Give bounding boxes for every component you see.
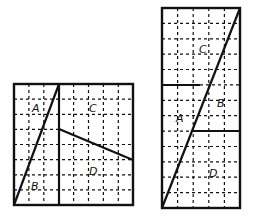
rectangle-figure: C B A D: [162, 8, 240, 208]
label-B: B: [31, 180, 39, 193]
label-C: C: [199, 43, 207, 56]
label-D: D: [209, 167, 217, 180]
label-D: D: [89, 165, 97, 178]
rectangle-diagonal-cut: [162, 8, 240, 208]
label-A: A: [31, 102, 40, 115]
label-B: B: [217, 97, 225, 110]
paradox-diagram: A B C D C B A D: [0, 0, 254, 219]
label-C: C: [89, 102, 97, 115]
label-A: A: [175, 112, 184, 125]
square-figure: A B C D: [14, 84, 133, 205]
